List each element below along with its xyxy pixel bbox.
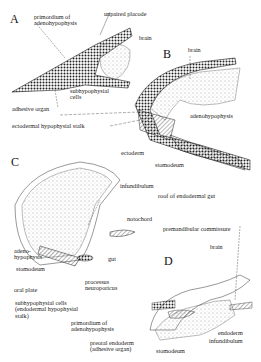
label-gut: gut <box>108 256 116 262</box>
label-infundibulum-d: infundibulum <box>209 338 243 344</box>
label-subhypophysial-cells-a: subhypophysialcells <box>70 88 109 101</box>
label-brain-b: brain <box>188 47 201 53</box>
label-line-2: neuroporicus <box>85 284 117 291</box>
label-stomodeum-d: stomodeum <box>156 348 185 354</box>
label-infundibulum-c: infundibulum <box>120 183 154 189</box>
label-adenohypophysis-c: adeno-hypophysis <box>14 248 42 261</box>
label-processus-neuroporicus: processusneuroporicus <box>85 279 117 292</box>
label-brain-a: brain <box>139 35 152 41</box>
panel-label-a: A <box>10 12 19 27</box>
label-stomodeum-b: stomodeum <box>155 162 184 168</box>
label-primordium-adenohypophysis-a: primordium ofadenohypophysis <box>34 14 77 27</box>
label-adhesive-organ: adhesive organ <box>12 106 49 112</box>
label-endoderm-d: endoderm <box>218 330 243 336</box>
panel-d-drawing <box>150 226 252 340</box>
label-ectoderm-b: ectoderm <box>121 150 144 156</box>
panel-label-c: C <box>11 155 19 170</box>
label-notochord: notochord <box>127 216 152 222</box>
label-line-3: stalk) <box>15 312 29 319</box>
panel-label-d: D <box>164 254 173 269</box>
label-adenohypophysis-b: adenohypophysis <box>190 113 233 119</box>
label-premandibular-commissure: premandibular commissure <box>163 226 231 232</box>
label-line-2: (adhesive organ) <box>90 345 131 352</box>
label-preoral-endoderm: preoral endoderm(adhesive organ) <box>90 340 134 353</box>
label-line-2: hypophysis <box>14 253 42 260</box>
label-primordium-adenohypophysis-d: primordium ofadenohypophysis <box>71 320 114 333</box>
label-stomodeum-c: stomodeum <box>16 266 45 272</box>
label-line-2: cells <box>70 93 81 100</box>
label-roof-endodermal-gut: roof of endodermal gut <box>158 193 215 199</box>
label-oral-plate: oral plate <box>14 287 37 293</box>
label-line-2: adenohypophysis <box>71 325 114 332</box>
label-ectodermal-hypophysial-stalk: ectodermal hypophysial stalk <box>12 123 85 129</box>
label-line-2: adenohypophysis <box>34 19 77 26</box>
label-unpaired-placode: unpaired placode <box>104 11 146 17</box>
label-brain-d: brain <box>210 244 223 250</box>
label-subhypophysial-cells-c: subhypophysial cells(endodermal hypophys… <box>15 300 78 319</box>
panel-label-b: B <box>163 47 171 62</box>
